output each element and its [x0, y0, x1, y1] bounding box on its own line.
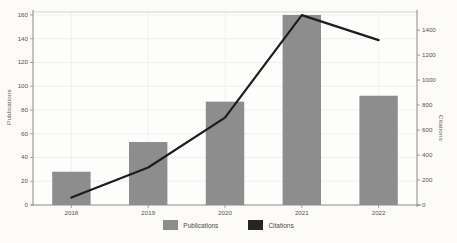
x-axis-tick-label: 2020 — [218, 209, 232, 216]
left-axis-tick-label: 60 — [21, 130, 28, 137]
right-axis-tick-label: 200 — [422, 176, 433, 183]
publications-citations-chart: 0204060801001201401600200400600800100012… — [0, 0, 457, 243]
legend-item-publications: Publications — [163, 220, 218, 230]
x-axis-tick-label: 2019 — [141, 209, 155, 216]
left-axis-tick-label: 100 — [18, 82, 29, 89]
bar-2018 — [52, 172, 90, 205]
left-axis-tick-label: 80 — [21, 106, 28, 113]
left-axis-tick-label: 20 — [21, 177, 28, 184]
right-axis-tick-label: 400 — [422, 151, 433, 158]
left-axis-title: Publications — [5, 89, 12, 125]
citations-legend-swatch-icon — [248, 220, 263, 230]
legend-item-citations: Citations — [248, 220, 293, 230]
x-axis-tick-label: 2022 — [372, 209, 386, 216]
left-axis-tick-label: 0 — [25, 201, 29, 208]
chart-legend: Publications Citations — [0, 220, 457, 230]
chart-plot-svg: 0204060801001201401600200400600800100012… — [0, 0, 457, 243]
publications-legend-label: Publications — [183, 222, 218, 229]
x-axis-tick-label: 2021 — [295, 209, 309, 216]
right-axis-tick-label: 1000 — [422, 76, 436, 83]
right-axis-tick-label: 0 — [422, 201, 426, 208]
left-axis-tick-label: 160 — [18, 11, 29, 18]
right-axis-tick-label: 1200 — [422, 51, 436, 58]
right-axis-tick-label: 800 — [422, 101, 433, 108]
x-axis-tick-label: 2018 — [65, 209, 79, 216]
bar-2021 — [283, 15, 321, 205]
bar-2022 — [359, 96, 397, 205]
left-axis-tick-label: 40 — [21, 153, 28, 160]
left-axis-tick-label: 140 — [18, 35, 29, 42]
right-axis-title: Citations — [438, 115, 445, 141]
citations-legend-label: Citations — [268, 222, 293, 229]
left-axis-tick-label: 120 — [18, 58, 29, 65]
right-axis-tick-label: 600 — [422, 126, 433, 133]
publications-legend-swatch-icon — [163, 220, 178, 230]
right-axis-tick-label: 1400 — [422, 26, 436, 33]
